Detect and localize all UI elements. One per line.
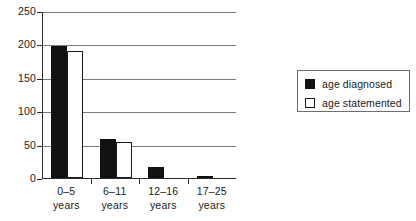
legend-swatch-hollow-icon bbox=[305, 98, 315, 108]
bar bbox=[100, 139, 116, 178]
bar bbox=[51, 46, 67, 178]
y-axis-tick-label: 100 bbox=[0, 105, 36, 117]
y-axis-tick-label: 250 bbox=[0, 5, 36, 17]
x-axis-category-label: 12–16years bbox=[139, 185, 188, 212]
bar bbox=[197, 176, 213, 178]
bar bbox=[116, 142, 132, 178]
x-axis-category-label: 6–11years bbox=[91, 185, 140, 212]
x-axis-category-range: 6–11 bbox=[103, 185, 126, 197]
x-axis-category-unit: years bbox=[42, 199, 91, 213]
x-axis-category-range: 0–5 bbox=[57, 185, 75, 197]
y-axis-tick-label: 150 bbox=[0, 72, 36, 84]
legend-label-age-diagnosed: age diagnosed bbox=[322, 78, 392, 90]
x-axis-tick-mark bbox=[188, 179, 189, 184]
x-axis-category-label: 17–25years bbox=[188, 185, 237, 212]
bar-chart: 050100150200250 0–5years6–11years12–16ye… bbox=[0, 0, 416, 221]
legend-item-age-diagnosed: age diagnosed bbox=[305, 76, 403, 92]
x-axis-category-unit: years bbox=[139, 199, 188, 213]
y-axis-tick-label: 0 bbox=[0, 172, 36, 184]
x-axis-tick-mark bbox=[139, 179, 140, 184]
legend: age diagnosed age statemented bbox=[297, 70, 410, 112]
legend-swatch-filled-icon bbox=[305, 79, 315, 89]
x-axis-category-unit: years bbox=[91, 199, 140, 213]
y-axis-tick-label: 50 bbox=[0, 139, 36, 151]
legend-item-age-statemented: age statemented bbox=[305, 95, 403, 111]
bar bbox=[67, 51, 83, 178]
bar bbox=[148, 167, 164, 178]
x-axis-category-range: 12–16 bbox=[148, 185, 178, 197]
gridline bbox=[43, 45, 236, 46]
x-axis-tick-mark bbox=[91, 179, 92, 184]
plot-area bbox=[42, 12, 236, 179]
gridline bbox=[43, 12, 236, 13]
legend-label-age-statemented: age statemented bbox=[322, 97, 402, 109]
y-axis-tick-label: 200 bbox=[0, 38, 36, 50]
x-axis-category-range: 17–25 bbox=[197, 185, 227, 197]
x-axis-category-label: 0–5years bbox=[42, 185, 91, 212]
x-axis-category-unit: years bbox=[188, 199, 237, 213]
y-axis-tick-mark bbox=[37, 179, 42, 180]
